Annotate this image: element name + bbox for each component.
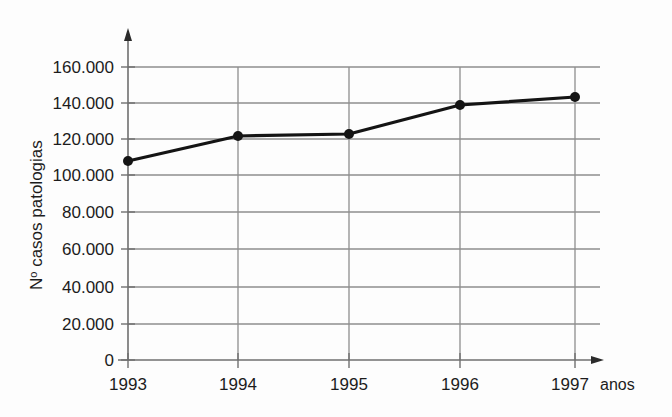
y-tick-label-40000: 40.000 xyxy=(62,278,114,297)
y-axis xyxy=(121,28,135,360)
x-tick-label-1997: 1997 xyxy=(551,375,589,394)
series-line-casos-patologias xyxy=(128,97,575,161)
y-axis-title-prefix: N xyxy=(27,278,46,290)
y-tick-label-60000: 60.000 xyxy=(62,240,114,259)
data-point-1997[interactable] xyxy=(570,92,580,102)
y-tick-labels: 160.000 140.000 120.000 100.000 80.000 6… xyxy=(53,58,114,370)
y-tick-label-100000: 100.000 xyxy=(53,166,114,185)
x-tick-label-1995: 1995 xyxy=(330,375,368,394)
x-tick-label-1993: 1993 xyxy=(109,375,147,394)
y-tick-label-120000: 120.000 xyxy=(53,130,114,149)
x-tick-label-1994: 1994 xyxy=(219,375,257,394)
svg-text:No casos patologias: No casos patologias xyxy=(27,140,46,290)
x-tick-labels: 1993 1994 1995 1996 1997 anos xyxy=(109,375,635,394)
y-tick-label-80000: 80.000 xyxy=(62,203,114,222)
vertical-gridlines xyxy=(238,67,575,360)
y-tick-label-160000: 160.000 xyxy=(53,58,114,77)
horizontal-gridlines xyxy=(128,67,600,324)
x-axis-unit-label: anos xyxy=(600,376,635,393)
data-point-1994[interactable] xyxy=(233,131,243,141)
y-axis-title-main: casos patologias xyxy=(27,140,46,267)
x-tick-label-1996: 1996 xyxy=(441,375,479,394)
y-tick-label-140000: 140.000 xyxy=(53,94,114,113)
data-point-1996[interactable] xyxy=(455,100,465,110)
data-point-1995[interactable] xyxy=(344,129,354,139)
y-tick-label-0: 0 xyxy=(105,351,114,370)
line-chart-canvas: 160.000 140.000 120.000 100.000 80.000 6… xyxy=(0,0,672,417)
x-axis xyxy=(118,353,604,368)
data-point-1993[interactable] xyxy=(123,156,133,166)
y-tick-label-20000: 20.000 xyxy=(62,315,114,334)
y-axis-title: No casos patologias xyxy=(27,140,46,290)
chart-figure: 160.000 140.000 120.000 100.000 80.000 6… xyxy=(0,0,672,417)
y-axis-arrow-icon xyxy=(124,28,132,41)
x-axis-arrow-icon xyxy=(591,356,604,364)
